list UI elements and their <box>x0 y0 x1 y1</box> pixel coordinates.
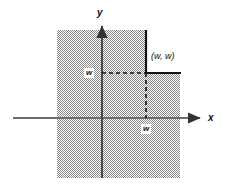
y-axis-label: y <box>97 8 103 18</box>
x-axis-label: x <box>208 113 214 123</box>
region-diagram-svg <box>0 0 225 190</box>
y-tick-label-w: w <box>84 68 94 78</box>
x-tick-label-w: w <box>141 124 151 134</box>
diagram-canvas: y x (w, w) w w <box>0 0 225 190</box>
point-label-w-w: (w, w) <box>151 52 175 61</box>
